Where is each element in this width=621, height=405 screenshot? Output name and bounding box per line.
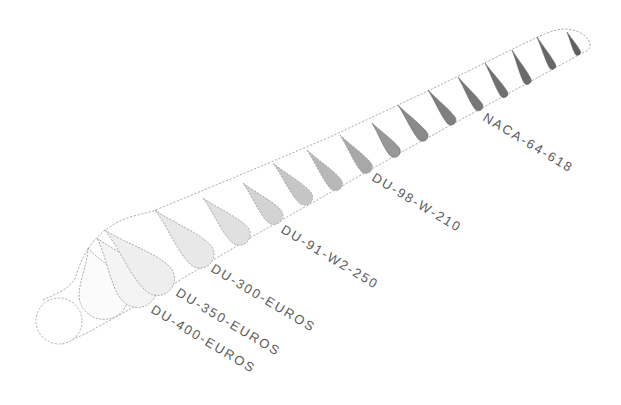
label-naca-64-618: NACA-64-618	[480, 110, 576, 176]
hub-section-circle	[36, 298, 82, 344]
blade-airfoil-diagram: DU-400-EUROS DU-350-EUROS DU-300-EUROS D…	[0, 0, 621, 405]
label-du-98-w-210: DU-98-W-210	[369, 170, 464, 235]
label-du-91-w2-250: DU-91-W2-250	[278, 222, 381, 292]
